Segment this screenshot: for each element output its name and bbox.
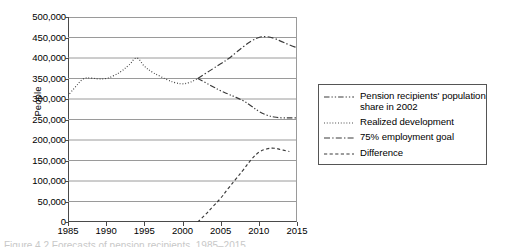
plot-area: [68, 17, 297, 222]
x-axis-tick-mark: [106, 222, 107, 226]
legend-line-swatch-dash-dot-icon: [324, 132, 354, 143]
y-axis-tick-label: 400,000: [4, 53, 66, 63]
x-axis-tick-mark: [183, 222, 184, 226]
figure-caption: Figure 4.2 Forecasts of pension recipien…: [4, 240, 504, 247]
y-axis-tick-label: 300,000: [4, 94, 66, 104]
y-axis-tick-mark: [65, 17, 69, 18]
legend-item[interactable]: Difference: [319, 147, 486, 159]
x-axis-tick-mark: [221, 222, 222, 226]
y-axis-tick-label: 50,000: [4, 197, 66, 207]
y-axis-tick-label: 250,000: [4, 115, 66, 125]
y-axis-tick-mark: [65, 79, 69, 80]
chart-figure: People 050,000100,000150,000200,000250,0…: [0, 0, 505, 247]
legend-item[interactable]: Pension recipients' population share in …: [319, 90, 486, 112]
series-line: [68, 58, 198, 96]
x-axis-tick-mark: [297, 222, 298, 226]
legend-line-swatch-dotted-icon: [324, 117, 354, 128]
legend-item-label: 75% employment goal: [354, 131, 454, 142]
y-axis-tick-mark: [65, 99, 69, 100]
y-axis-tick-mark: [65, 181, 69, 182]
legend-item-label: Pension recipients' population share in …: [354, 90, 486, 112]
y-axis-tick-mark: [65, 202, 69, 203]
y-axis-tick-labels: 050,000100,000150,000200,000250,000300,0…: [0, 0, 66, 247]
x-axis-tick-label: 1995: [124, 226, 164, 236]
series-line: [198, 79, 297, 118]
y-axis-tick-mark: [65, 120, 69, 121]
legend-item-label: Realized development: [354, 116, 454, 127]
x-axis-tick-mark: [259, 222, 260, 226]
x-axis-tick-label: 2015: [277, 226, 317, 236]
y-axis-tick-label: 350,000: [4, 74, 66, 84]
x-axis-tick-label: 1990: [86, 226, 126, 236]
y-axis-tick-label: 200,000: [4, 135, 66, 145]
chart-legend: Pension recipients' population share in …: [318, 84, 487, 165]
y-axis-tick-mark: [65, 161, 69, 162]
x-axis-tick-label: 2000: [163, 226, 203, 236]
legend-item[interactable]: Realized development: [319, 116, 486, 128]
legend-item-label: Difference: [354, 147, 403, 158]
y-axis-tick-mark: [65, 140, 69, 141]
legend-item[interactable]: 75% employment goal: [319, 131, 486, 143]
x-axis-tick-label: 1985: [48, 226, 88, 236]
y-axis-tick-label: 150,000: [4, 156, 66, 166]
legend-line-swatch-dashed-icon: [324, 148, 354, 159]
series-line: [198, 148, 290, 222]
x-axis-tick-mark: [68, 222, 69, 226]
y-axis-tick-label: 450,000: [4, 33, 66, 43]
legend-line-swatch-dash-dot-dot-icon: [324, 91, 354, 102]
x-axis-tick-label: 2005: [201, 226, 241, 236]
y-axis-tick-mark: [65, 58, 69, 59]
x-axis-tick-mark: [144, 222, 145, 226]
x-axis-tick-label: 2010: [239, 226, 279, 236]
y-axis-tick-label: 500,000: [4, 12, 66, 22]
y-axis-tick-mark: [65, 38, 69, 39]
y-axis-tick-label: 100,000: [4, 176, 66, 186]
